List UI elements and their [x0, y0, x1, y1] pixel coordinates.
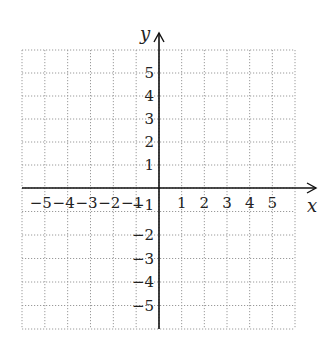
x-tick-label: −5 — [30, 194, 52, 212]
y-tick-label: −4 — [132, 273, 154, 291]
y-tick-label: 4 — [144, 87, 154, 105]
y-tick-label: −3 — [132, 250, 154, 268]
y-tick-label: −5 — [132, 297, 154, 315]
x-tick-label: 2 — [200, 194, 210, 212]
x-tick-label: 5 — [268, 194, 278, 212]
x-tick-label: −3 — [75, 194, 97, 212]
x-tick-label: 3 — [222, 194, 232, 212]
y-tick-label: 1 — [144, 156, 154, 174]
y-axis-label: y — [139, 23, 151, 44]
y-tick-label: −1 — [132, 196, 154, 214]
x-tick-label: 4 — [245, 194, 255, 212]
y-tick-labels: 54321−1−2−3−4−5 — [132, 64, 154, 315]
x-tick-label: −4 — [53, 194, 75, 212]
y-tick-label: −2 — [132, 226, 154, 244]
x-tick-label: −2 — [98, 194, 120, 212]
y-tick-label: 2 — [144, 133, 154, 151]
y-tick-label: 3 — [144, 110, 154, 128]
x-tick-label: 1 — [177, 194, 187, 212]
y-tick-label: 5 — [144, 64, 154, 82]
x-axis-label: x — [307, 195, 317, 216]
coordinate-plane: x y −5−4−3−2−112345 54321−1−2−3−4−5 — [0, 0, 336, 357]
